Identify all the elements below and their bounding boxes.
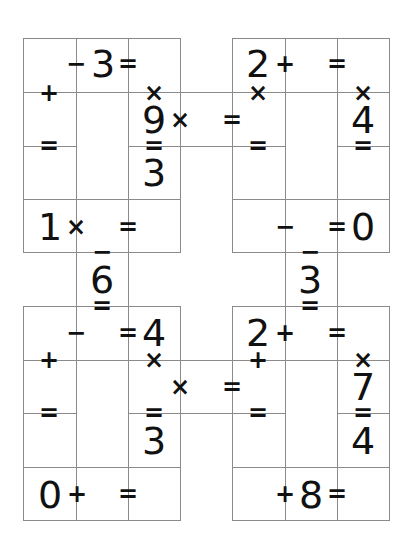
operator-symbol: ×	[144, 348, 164, 372]
operator-symbol: =	[118, 482, 138, 506]
operator-symbol: +	[39, 348, 59, 372]
operator-symbol: =	[327, 52, 347, 76]
grid-line-vertical	[337, 38, 338, 521]
operator-symbol: +	[275, 321, 295, 345]
number-clue: 3	[142, 422, 166, 460]
operator-symbol: =	[222, 375, 242, 399]
grid-line-vertical	[180, 38, 181, 253]
operator-symbol: =	[118, 321, 138, 345]
operator-symbol: =	[353, 134, 373, 158]
number-clue: 2	[246, 45, 270, 83]
grid-line-vertical	[128, 38, 129, 521]
number-clue: 1	[38, 208, 62, 246]
operator-symbol: −	[66, 321, 86, 345]
grid-line-horizontal	[23, 467, 181, 468]
grid-line-vertical	[232, 306, 233, 521]
operator-symbol: ×	[248, 81, 268, 105]
operator-symbol: ×	[66, 215, 86, 239]
grid-line-vertical	[23, 38, 24, 253]
grid-line-vertical	[180, 306, 181, 521]
number-clue: 3	[91, 45, 115, 83]
grid-line-vertical	[232, 38, 233, 253]
grid-line-horizontal	[180, 92, 233, 93]
grid-line-horizontal	[180, 360, 233, 361]
operator-symbol: −	[66, 52, 86, 76]
grid-line-vertical	[76, 38, 77, 521]
number-clue: 8	[299, 476, 323, 514]
operator-symbol: +	[39, 81, 59, 105]
operator-symbol: −	[275, 215, 295, 239]
grid-line-horizontal	[23, 38, 181, 39]
operator-symbol: =	[327, 321, 347, 345]
operator-symbol: =	[327, 215, 347, 239]
grid-line-horizontal	[232, 199, 390, 200]
operator-symbol: ×	[170, 375, 190, 399]
grid-line-horizontal	[23, 520, 181, 521]
operator-symbol: =	[327, 482, 347, 506]
grid-line-vertical	[389, 38, 390, 253]
operator-symbol: +	[275, 52, 295, 76]
number-clue: 0	[351, 208, 375, 246]
grid-line-horizontal	[232, 38, 390, 39]
grid-line-horizontal	[180, 413, 233, 414]
operator-symbol: =	[118, 52, 138, 76]
operator-symbol: ×	[170, 108, 190, 132]
grid-line-horizontal	[232, 467, 390, 468]
grid-line-horizontal	[23, 199, 181, 200]
operator-symbol: =	[300, 294, 320, 318]
operator-symbol: +	[248, 348, 268, 372]
grid-line-horizontal	[232, 520, 390, 521]
operator-symbol: =	[118, 215, 138, 239]
operator-symbol: =	[39, 401, 59, 425]
number-clue: 4	[351, 422, 375, 460]
operator-symbol: =	[39, 134, 59, 158]
operator-symbol: =	[248, 134, 268, 158]
grid-line-vertical	[23, 306, 24, 521]
grid-line-horizontal	[180, 146, 233, 147]
cross-math-puzzle-board: −3=+×9×==31×=−6==2+=××4==−=0−3=−=4+××==3…	[0, 0, 411, 551]
operator-symbol: =	[248, 401, 268, 425]
operator-symbol: =	[222, 108, 242, 132]
operator-symbol: +	[67, 482, 87, 506]
operator-symbol: =	[92, 294, 112, 318]
grid-line-vertical	[389, 306, 390, 521]
operator-symbol: +	[275, 482, 295, 506]
grid-line-vertical	[285, 38, 286, 521]
number-clue: 0	[38, 476, 62, 514]
number-clue: 3	[142, 154, 166, 192]
